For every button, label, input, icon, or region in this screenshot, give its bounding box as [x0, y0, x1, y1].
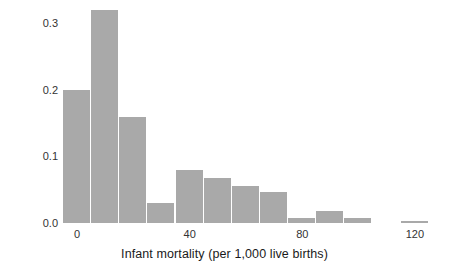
histogram-figure: Proportion 0.00.10.20.3 04080120 Infant … — [0, 0, 449, 275]
histogram-bar — [63, 90, 90, 223]
histogram-bar — [401, 221, 428, 223]
x-tick-label: 120 — [406, 228, 424, 240]
y-tick-label: 0.1 — [12, 150, 58, 162]
histogram-bar — [91, 10, 118, 223]
histogram-bar — [204, 178, 231, 223]
x-tick-label: 0 — [74, 228, 80, 240]
y-tick-label: 0.2 — [12, 84, 58, 96]
histogram-bar — [176, 170, 203, 223]
plot-area — [63, 0, 443, 223]
y-tick-label: 0.3 — [12, 17, 58, 29]
histogram-bar — [147, 203, 174, 223]
x-axis-title: Infant mortality (per 1,000 live births) — [0, 247, 449, 261]
histogram-bar — [288, 218, 315, 223]
histogram-bar — [260, 192, 287, 223]
x-tick-label: 80 — [296, 228, 308, 240]
histogram-bar — [344, 218, 371, 223]
histogram-bar — [316, 211, 343, 223]
histogram-bar — [232, 186, 259, 223]
x-axis-ticks: 04080120 — [0, 228, 449, 246]
x-tick-label: 40 — [184, 228, 196, 240]
histogram-bar — [119, 117, 146, 224]
